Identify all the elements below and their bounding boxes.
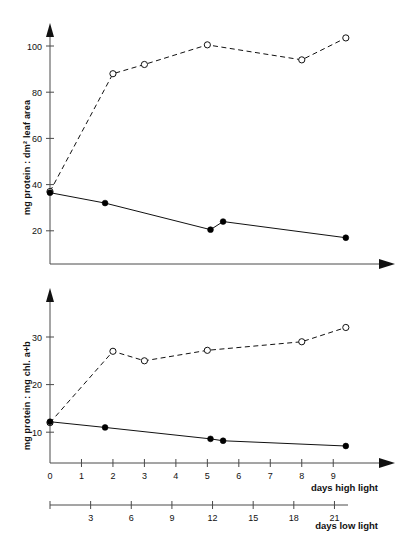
bottom-x-tick-label-0: 0 [47, 471, 52, 481]
secondary-x-tick-label-3: 3 [88, 513, 93, 523]
bottom-x-ticks: 0123456789 [47, 459, 335, 481]
secondary-x-tick-label-18: 18 [289, 513, 299, 523]
secondary-x-tick-label-12: 12 [208, 513, 218, 523]
data-point-s0-3 [204, 347, 210, 353]
bottom-y-axis-title: mg protein : mg chl. a+b [22, 341, 32, 450]
top-y-tick-label-80: 80 [32, 88, 42, 98]
series-line-1 [50, 422, 346, 446]
bottom-x-tick-label-4: 4 [173, 471, 178, 481]
series-line-1 [50, 193, 346, 238]
data-point-s0-4 [299, 57, 305, 63]
data-point-s1-1 [102, 200, 108, 206]
data-point-s1-1 [102, 425, 108, 431]
bottom-x-tick-label-7: 7 [268, 471, 273, 481]
secondary-x-tick-label-6: 6 [129, 513, 134, 523]
bottom-y-tick-label-10: 10 [32, 428, 42, 438]
data-point-s1-2 [208, 227, 214, 233]
bottom-series-layer [47, 324, 349, 449]
top-y-tick-label-40: 40 [32, 180, 42, 190]
bottom-x-tick-label-3: 3 [142, 471, 147, 481]
top-series-layer [47, 35, 349, 241]
top-y-tick-label-20: 20 [32, 226, 42, 236]
data-point-s0-1 [110, 71, 116, 77]
secondary-x-tick-label-9: 9 [169, 513, 174, 523]
bottom-x-tick-label-6: 6 [236, 471, 241, 481]
data-point-s1-3 [220, 219, 226, 225]
top-y-tick-label-100: 100 [27, 42, 42, 52]
bottom-y-axis-arrow [46, 288, 54, 302]
data-point-s0-1 [110, 348, 116, 354]
figure-root: 100 80 60 40 20 mg protein : dm² leaf ar… [0, 0, 408, 538]
data-point-s1-2 [208, 436, 214, 442]
top-y-axis-arrow [46, 23, 54, 37]
data-point-s1-4 [343, 235, 349, 241]
data-point-s0-4 [299, 339, 305, 345]
top-x-axis-arrow [379, 259, 395, 269]
bottom-x-tick-label-5: 5 [205, 471, 210, 481]
secondary-x-tick-label-15: 15 [248, 513, 258, 523]
data-point-s0-5 [343, 35, 349, 41]
data-point-s1-4 [343, 443, 349, 449]
data-point-s0-5 [343, 324, 349, 330]
bottom-x-tick-label-8: 8 [299, 471, 304, 481]
bottom-panel: 30 20 10 mg protein : mg chl. a+b 012345… [22, 288, 395, 531]
x-axis-caption-low-light: days low light [315, 520, 379, 531]
bottom-x-tick-label-1: 1 [79, 471, 84, 481]
bottom-y-tick-label-20: 20 [32, 380, 42, 390]
data-point-s0-3 [204, 42, 210, 48]
top-panel: 100 80 60 40 20 mg protein : dm² leaf ar… [22, 23, 395, 269]
x-axis-caption-high-light: days high light [311, 482, 379, 493]
bottom-x-tick-label-9: 9 [331, 471, 336, 481]
data-point-s1-3 [220, 438, 226, 444]
bottom-x-tick-label-2: 2 [110, 471, 115, 481]
secondary-x-ticks: 36912151821 [50, 501, 339, 523]
data-point-s1-0 [47, 419, 53, 425]
top-y-tick-label-60: 60 [32, 134, 42, 144]
data-point-s0-2 [141, 61, 147, 67]
data-point-s0-2 [141, 358, 147, 364]
bottom-y-tick-label-30: 30 [32, 333, 42, 343]
top-y-axis-title: mg protein : dm² leaf area [22, 99, 32, 215]
data-point-s1-0 [47, 190, 53, 196]
bottom-x-axis-arrow [379, 458, 395, 468]
